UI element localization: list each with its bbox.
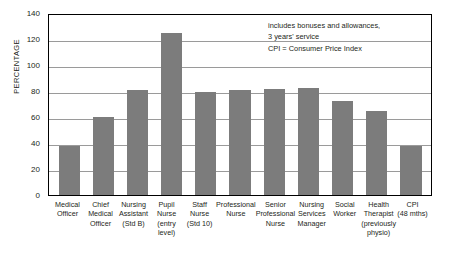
x-axis-label-line: Nurse (256, 219, 296, 228)
x-axis-label-line: (entry (150, 219, 183, 228)
x-axis-label-line: Professional (256, 209, 296, 218)
x-axis-label-line: Officer (51, 209, 84, 218)
x-axis-category-label: ChiefMedicalOfficer (84, 200, 117, 238)
x-axis-label-line: Pupil (150, 200, 183, 209)
x-axis-label-line: (Std B) (117, 219, 150, 228)
x-axis-category-label: PupilNurse(entrylevel) (150, 200, 183, 238)
bar-slot (86, 15, 120, 195)
x-axis-label-line: Assistant (117, 209, 150, 218)
x-axis-label-line: Medical (84, 209, 117, 218)
y-axis-tick-label: 0 (36, 192, 40, 200)
x-axis-label-line: Nurse (216, 209, 256, 218)
chart-annotation: includes bonuses and allowances, 3 years… (268, 20, 380, 54)
x-axis-label-line: Medical (51, 200, 84, 209)
x-axis-label-line: Nursing (117, 200, 150, 209)
bar (93, 117, 114, 195)
bar (161, 33, 182, 195)
x-axis-category-labels: MedicalOfficerChiefMedicalOfficerNursing… (48, 200, 432, 238)
bar (366, 111, 387, 196)
x-axis-label-line: Nurse (183, 209, 216, 218)
y-axis-tick-label: 40 (31, 140, 40, 148)
x-axis-label-line: Social (328, 200, 361, 209)
bar (332, 101, 353, 195)
x-axis-label-line: Chief (84, 200, 117, 209)
bar-slot (223, 15, 257, 195)
annotation-line-2: 3 years' service (268, 31, 380, 42)
y-axis-tick-label: 60 (31, 114, 40, 122)
x-axis-label-line: Services (295, 209, 328, 218)
x-axis-label-line: Staff (183, 200, 216, 209)
y-axis-tick-label: 140 (27, 10, 40, 18)
x-axis-category-label: HealthTherapist(previouslyphysio) (361, 200, 396, 238)
x-axis-label-line: Manager (295, 219, 328, 228)
x-axis-label-line: physio) (361, 228, 396, 237)
x-axis-category-label: ProfessionalNurse (216, 200, 256, 238)
bar (229, 90, 250, 195)
bar-slot (155, 15, 189, 195)
x-axis-category-label: CPI(48 mths) (396, 200, 429, 238)
bar (298, 88, 319, 195)
x-axis-label-line: (previously (361, 219, 396, 228)
bar-slot (52, 15, 86, 195)
bar-slot (189, 15, 223, 195)
y-axis-tick-label: 20 (31, 166, 40, 174)
x-axis-category-label: MedicalOfficer (51, 200, 84, 238)
x-axis-label-line: Health (361, 200, 396, 209)
x-axis-category-label: NursingAssistant(Std B) (117, 200, 150, 238)
y-axis-tick-label: 120 (27, 36, 40, 44)
y-axis-tick-labels: 140120100806040200 (0, 14, 44, 196)
y-axis-tick-label: 80 (31, 88, 40, 96)
x-axis-category-label: StaffNurse(Std 10) (183, 200, 216, 238)
bar-slot (120, 15, 154, 195)
x-axis-category-label: NursingServicesManager (295, 200, 328, 238)
x-axis-label-line: Therapist (361, 209, 396, 218)
bar (264, 89, 285, 195)
annotation-line-1: includes bonuses and allowances, (268, 20, 380, 31)
x-axis-label-line: Worker (328, 209, 361, 218)
bar-chart: PERCENTAGE 140120100806040200 includes b… (0, 0, 454, 264)
x-axis-label-line: CPI (396, 200, 429, 209)
x-axis-label-line: (48 mths) (396, 209, 429, 218)
x-axis-label-line: Nurse (150, 209, 183, 218)
bar (195, 92, 216, 195)
x-axis-label-line: (Std 10) (183, 219, 216, 228)
annotation-line-3: CPI = Consumer Price Index (268, 43, 380, 54)
x-axis-label-line: Nursing (295, 200, 328, 209)
x-axis-category-label: SeniorProfessionalNurse (256, 200, 296, 238)
x-axis-label-line: level) (150, 228, 183, 237)
x-axis-label-line: Senior (256, 200, 296, 209)
bar-slot (394, 15, 428, 195)
bar (127, 90, 148, 195)
y-axis-tick-label: 100 (27, 62, 40, 70)
bar (400, 146, 421, 195)
x-axis-label-line: Professional (216, 200, 256, 209)
x-axis-label-line: Officer (84, 219, 117, 228)
bar (59, 146, 80, 195)
x-axis-category-label: SocialWorker (328, 200, 361, 238)
